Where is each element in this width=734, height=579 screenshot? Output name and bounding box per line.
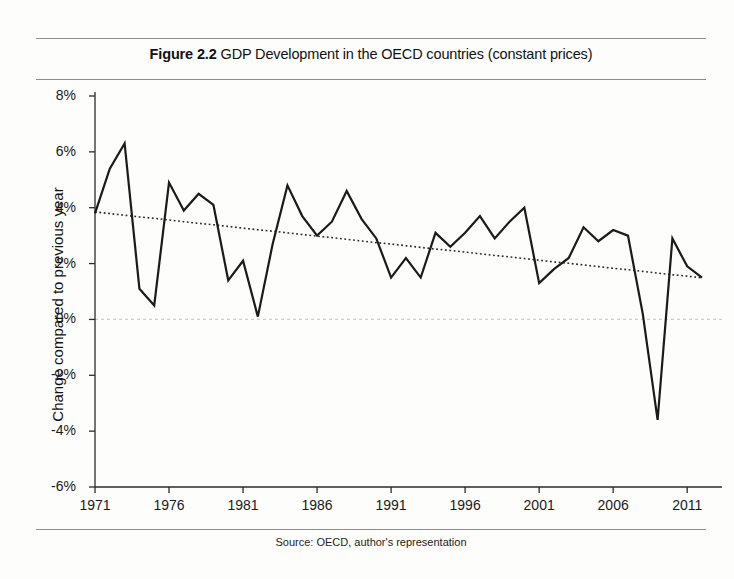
y-tick-label: -4% xyxy=(24,422,76,438)
y-tick-label: 0% xyxy=(24,310,76,326)
figure-number: Figure 2.2 xyxy=(150,46,217,62)
y-tick-label: 8% xyxy=(24,87,76,103)
source-note: Source: OECD, author's representation xyxy=(36,536,706,548)
y-tick-label: 2% xyxy=(24,255,76,271)
y-tick-label: 6% xyxy=(24,143,76,159)
title-rule-bottom xyxy=(36,79,706,80)
x-tick-label: 1996 xyxy=(435,497,495,513)
y-tick-label: -2% xyxy=(24,366,76,382)
y-tick-label: -6% xyxy=(24,478,76,494)
gdp-change-series xyxy=(95,143,702,419)
figure-page: Figure 2.2 GDP Development in the OECD c… xyxy=(0,0,734,579)
x-tick-label: 2006 xyxy=(583,497,643,513)
axis-layer xyxy=(89,92,722,493)
figure-title: Figure 2.2 GDP Development in the OECD c… xyxy=(36,46,706,62)
title-rule-top xyxy=(36,38,706,39)
source-rule xyxy=(36,529,706,530)
x-tick-label: 1981 xyxy=(213,497,273,513)
figure-caption: GDP Development in the OECD countries (c… xyxy=(221,46,593,62)
x-tick-label: 2011 xyxy=(657,497,717,513)
x-tick-label: 1991 xyxy=(361,497,421,513)
data-line-layer xyxy=(95,143,702,419)
y-tick-label: 4% xyxy=(24,199,76,215)
chart-svg xyxy=(0,84,734,504)
x-tick-label: 1976 xyxy=(139,497,199,513)
x-tick-label: 1986 xyxy=(287,497,347,513)
x-tick-label: 2001 xyxy=(509,497,569,513)
x-tick-label: 1971 xyxy=(65,497,125,513)
chart-plot-area: Change compared to previous year 8%6%4%2… xyxy=(0,84,734,504)
